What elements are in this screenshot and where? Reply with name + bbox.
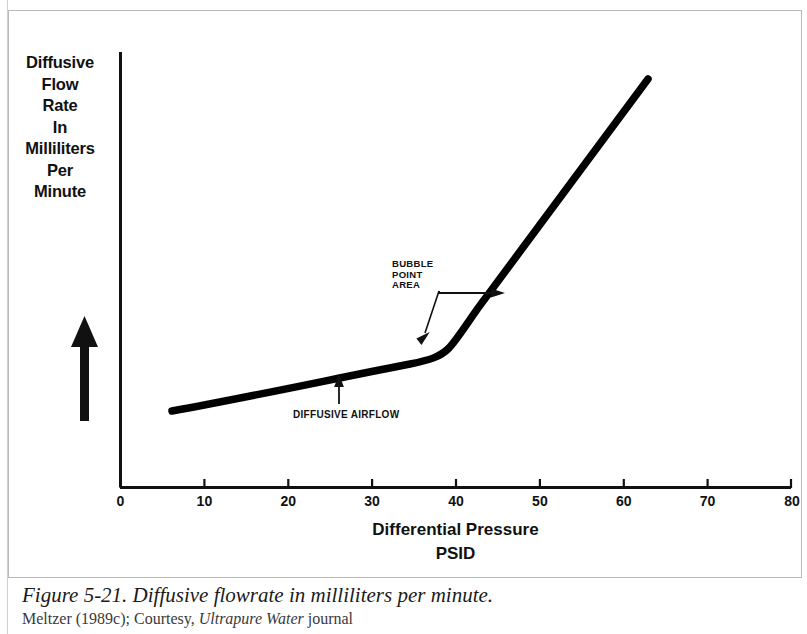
x-tick-label-60: 60 — [616, 493, 632, 509]
y-axis-title-line: Milliliters — [6, 138, 114, 160]
y-axis-title-line: Minute — [6, 181, 114, 203]
x-axis-title-line: PSID — [120, 542, 791, 566]
figure-caption-source: Meltzer (1989c); Courtesy, Ultrapure Wat… — [22, 609, 802, 628]
figure-caption-title: Figure 5-21. Diffusive flowrate in milli… — [22, 583, 802, 608]
y-axis-title-line: Rate — [6, 95, 114, 117]
figure-frame — [8, 10, 802, 578]
annotation-bubble-point-area: BUBBLE POINT AREA — [392, 259, 433, 291]
x-tick-label-70: 70 — [700, 493, 716, 509]
y-axis-title-line: Per — [6, 160, 114, 182]
x-tick-label-10: 10 — [197, 493, 213, 509]
annotation-bubble-point-line: AREA — [392, 280, 433, 291]
y-axis-title-line: Flow — [6, 74, 114, 96]
figure-caption: Figure 5-21. Diffusive flowrate in milli… — [22, 583, 802, 628]
x-tick-label-20: 20 — [281, 493, 297, 509]
x-tick-label-40: 40 — [448, 493, 464, 509]
annotation-diffusive-airflow: DIFFUSIVE AIRFLOW — [293, 409, 399, 420]
x-tick-label-0: 0 — [117, 493, 125, 509]
x-axis-title-line: Differential Pressure — [120, 518, 791, 542]
x-tick-label-30: 30 — [364, 493, 380, 509]
annotation-bubble-point-line: BUBBLE — [392, 259, 433, 270]
figure-caption-source-prefix: Meltzer (1989c); Courtesy, — [22, 610, 199, 627]
y-axis-title: Diffusive Flow Rate In Milliliters Per M… — [6, 52, 114, 203]
x-axis-title: Differential Pressure PSID — [120, 518, 791, 566]
y-axis-title-line: Diffusive — [6, 52, 114, 74]
y-axis-title-line: In — [6, 117, 114, 139]
x-tick-label-50: 50 — [532, 493, 548, 509]
figure-caption-source-journal: Ultrapure Water — [199, 610, 304, 627]
figure-caption-source-suffix: journal — [304, 610, 353, 627]
x-tick-label-80: 80 — [784, 493, 800, 509]
